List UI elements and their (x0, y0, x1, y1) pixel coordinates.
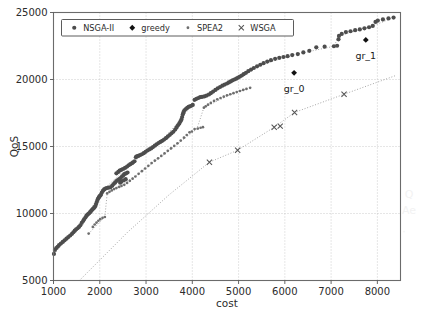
data-point (99, 218, 102, 221)
data-point (290, 53, 294, 57)
data-point (273, 57, 277, 61)
data-point (265, 59, 269, 63)
data-point (132, 159, 136, 163)
data-point (235, 91, 238, 94)
data-point (87, 232, 90, 235)
data-point (362, 26, 366, 30)
data-point (301, 50, 305, 54)
data-point (104, 216, 107, 219)
y-tick-label: 5000 (22, 275, 47, 286)
data-point (226, 94, 229, 97)
data-point (199, 126, 202, 129)
data-point (242, 89, 245, 92)
legend-label-greedy: greedy (141, 23, 170, 33)
x-axis-title: cost (216, 297, 238, 309)
data-point (296, 52, 300, 56)
chart-figure: gr_0gr_110002000300040005000600070008000… (0, 0, 428, 316)
data-point (232, 92, 235, 95)
data-point (150, 162, 153, 165)
x-tick-label: 7000 (318, 286, 343, 297)
data-point (209, 102, 212, 105)
data-point (153, 159, 156, 162)
data-point (141, 170, 144, 173)
data-point (202, 126, 205, 129)
y-tick-label: 15000 (16, 141, 48, 152)
data-point (239, 90, 242, 93)
data-point (353, 28, 357, 32)
data-point (101, 216, 104, 219)
x-tick-label: 4000 (180, 286, 205, 297)
data-point (323, 45, 327, 49)
x-tick-label: 5000 (226, 286, 251, 297)
y-tick-label: 20000 (16, 74, 48, 85)
data-point (124, 177, 128, 181)
data-point (376, 18, 380, 22)
legend-label-NSGA-II: NSGA-II (83, 23, 114, 33)
annotation-gr_1: gr_1 (355, 50, 376, 61)
data-point (261, 61, 265, 65)
data-point (286, 54, 290, 58)
data-point (381, 17, 385, 21)
data-point (183, 136, 186, 139)
data-point (106, 192, 109, 195)
data-point (197, 127, 200, 130)
y-tick-label: 10000 (16, 208, 48, 219)
y-tick-label: 25000 (16, 7, 48, 18)
data-point (219, 97, 222, 100)
data-point (125, 170, 129, 174)
data-point (340, 32, 344, 36)
data-point (120, 185, 123, 188)
data-point (391, 15, 395, 19)
x-tick-label: 8000 (365, 286, 390, 297)
data-point (128, 179, 131, 182)
legend-marker-SPEA2 (187, 26, 190, 29)
data-point (126, 182, 129, 185)
data-point (314, 45, 318, 49)
y-axis-title: QoS (8, 135, 20, 157)
data-point (191, 103, 195, 107)
data-point (179, 139, 182, 142)
data-point (170, 147, 173, 150)
data-point (335, 44, 339, 48)
data-point (386, 16, 390, 20)
data-point (216, 98, 219, 101)
data-point (163, 152, 166, 155)
legend-label-WSGA: WSGA (250, 23, 276, 33)
data-point (173, 145, 176, 148)
data-point (123, 183, 126, 186)
data-point (137, 172, 140, 175)
data-point (166, 149, 169, 152)
data-point (147, 164, 150, 167)
data-point (188, 131, 191, 134)
data-point (115, 187, 118, 190)
data-point (249, 86, 252, 89)
data-point (110, 189, 113, 192)
data-point (358, 27, 362, 31)
watermark-artifact: Q (405, 188, 414, 201)
data-point (229, 93, 232, 96)
x-tick-label: 6000 (272, 286, 297, 297)
annotation-gr_0: gr_0 (284, 83, 305, 94)
data-point (269, 58, 273, 62)
data-point (307, 49, 311, 53)
watermark-artifact: Ae (402, 204, 416, 217)
data-point (207, 103, 210, 106)
data-point (222, 95, 225, 98)
legend-label-SPEA2: SPEA2 (197, 23, 223, 33)
data-point (176, 142, 179, 145)
data-point (281, 55, 285, 59)
data-point (193, 128, 196, 131)
data-point (185, 134, 188, 137)
x-tick-label: 1000 (41, 286, 66, 297)
data-point (144, 167, 147, 170)
data-point (348, 29, 352, 33)
data-point (344, 30, 348, 34)
data-point (367, 25, 371, 29)
data-point (118, 186, 121, 189)
data-point (204, 105, 207, 108)
data-point (371, 24, 375, 28)
data-point (91, 226, 94, 229)
scatter-plot: gr_0gr_110002000300040005000600070008000… (0, 0, 428, 316)
x-tick-label: 3000 (133, 286, 158, 297)
data-point (190, 130, 193, 133)
